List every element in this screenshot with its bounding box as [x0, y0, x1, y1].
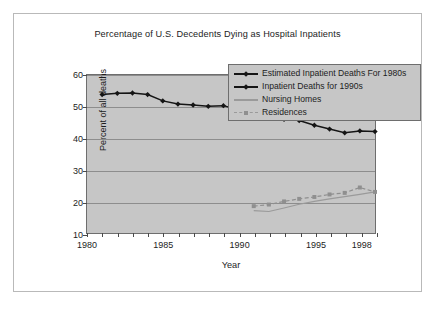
y-axis-tick-label: 20 — [73, 198, 83, 208]
x-axis-tick-label: 1990 — [230, 240, 250, 250]
chart-title: Percentage of U.S. Decedents Dying as Ho… — [14, 29, 421, 39]
data-point-marker — [282, 199, 286, 203]
legend-item[interactable]: Residences — [233, 106, 420, 119]
x-axis-tick — [102, 233, 103, 237]
legend-key-diamond-dark-line-icon — [233, 68, 259, 79]
data-point-marker — [221, 103, 226, 108]
data-point-marker — [206, 104, 211, 109]
x-axis-tick — [316, 233, 317, 237]
legend-item-label: Residences — [262, 107, 307, 118]
data-point-marker — [372, 129, 377, 134]
x-axis-tick — [118, 233, 119, 237]
x-axis-tick — [179, 233, 180, 237]
x-axis-tick-label: 1980 — [77, 240, 97, 250]
legend-item-label: Nursing Homes — [262, 94, 321, 105]
x-axis-tick — [240, 233, 241, 237]
data-point-marker — [373, 190, 377, 194]
data-point-marker — [190, 102, 195, 107]
x-axis-tick — [148, 233, 149, 237]
legend-item-label: Estimated Inpatient Deaths For 1980s — [262, 68, 406, 79]
legend-item[interactable]: Nursing Homes — [233, 93, 420, 106]
x-axis-tick — [346, 233, 347, 237]
y-axis-tick-label: 30 — [73, 166, 83, 176]
chart-figure: Percentage of U.S. Decedents Dying as Ho… — [13, 13, 422, 292]
data-point-marker — [130, 90, 135, 95]
x-axis-tick — [285, 233, 286, 237]
x-axis-tick-label: 1985 — [153, 240, 173, 250]
legend-item-label: Inpatient Deaths for 1990s — [262, 81, 363, 92]
data-point-marker — [328, 192, 332, 196]
legend-key-gray-solid-line-icon — [233, 94, 259, 105]
legend-key-gray-dashed-square-icon — [233, 107, 259, 118]
x-axis-tick — [133, 233, 134, 237]
x-axis-tick — [209, 233, 210, 237]
x-axis-tick — [331, 233, 332, 237]
y-axis-tick-label: 10 — [73, 230, 83, 240]
series-residences — [252, 186, 377, 209]
x-axis-tick — [224, 233, 225, 237]
series-nursing-homes — [254, 192, 375, 212]
data-point-marker — [358, 186, 362, 190]
data-point-marker — [267, 203, 271, 207]
data-point-marker — [327, 126, 332, 131]
legend-key-diamond-dark-line-icon — [233, 81, 259, 92]
data-point-marker — [357, 128, 362, 133]
y-axis-tick-label: 50 — [73, 102, 83, 112]
legend-item[interactable]: Inpatient Deaths for 1990s — [233, 80, 420, 93]
data-point-marker — [145, 92, 150, 97]
series-estimated-inpatient-deaths-for-1980s — [99, 90, 241, 112]
x-axis-tick — [194, 233, 195, 237]
series-line — [254, 192, 375, 212]
data-point-marker — [342, 130, 347, 135]
data-point-marker — [175, 101, 180, 106]
x-axis-tick — [362, 233, 363, 237]
x-axis-tick-label: 1995 — [306, 240, 326, 250]
x-axis-tick — [301, 233, 302, 237]
data-point-marker — [252, 204, 256, 208]
data-point-marker — [312, 123, 317, 128]
data-point-marker — [115, 91, 120, 96]
y-axis-tick-label: 60 — [73, 70, 83, 80]
x-axis-title: Year — [87, 260, 375, 270]
x-axis-tick — [255, 233, 256, 237]
x-axis-tick — [377, 233, 378, 237]
data-point-marker — [343, 191, 347, 195]
x-axis-tick — [87, 233, 88, 237]
x-axis-tick — [270, 233, 271, 237]
data-point-marker — [312, 195, 316, 199]
legend-item[interactable]: Estimated Inpatient Deaths For 1980s — [233, 67, 420, 80]
y-axis-tick-label: 40 — [73, 134, 83, 144]
data-point-marker — [99, 92, 104, 97]
chart-legend: Estimated Inpatient Deaths For 1980sInpa… — [228, 64, 421, 121]
x-axis-tick-label: 1998 — [352, 240, 372, 250]
data-point-marker — [160, 98, 165, 103]
series-line — [102, 93, 238, 110]
data-point-marker — [297, 197, 301, 201]
x-axis-tick — [163, 233, 164, 237]
